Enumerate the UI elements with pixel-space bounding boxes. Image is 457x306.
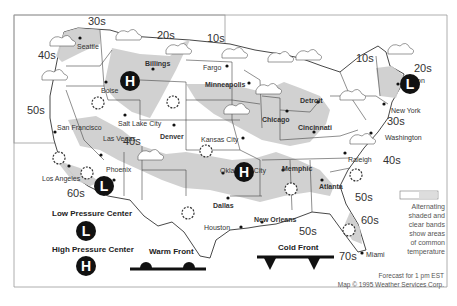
city-label: New York — [391, 107, 421, 114]
city-label: Chicago — [262, 116, 290, 123]
city-label: Houston — [204, 224, 230, 231]
city-label: Kansas City — [201, 136, 238, 143]
city-label: Atlanta — [319, 183, 343, 190]
temperature-band-label: 20s — [414, 63, 432, 74]
warm-front-symbol — [130, 262, 206, 269]
high-pressure-icon: H — [234, 162, 254, 182]
low-pressure-label: Low Pressure Center — [52, 210, 132, 218]
city-label: Dallas — [213, 202, 234, 209]
city-label: Miami — [366, 251, 385, 258]
temperature-band-label: 30s — [88, 16, 106, 27]
city-label: Washington — [385, 134, 422, 141]
high-pressure-legend-icon: H — [76, 256, 96, 276]
temperature-band-label: 40s — [383, 155, 401, 166]
band-note-line: show areas — [407, 229, 445, 238]
city-label: Cincinnati — [298, 124, 332, 131]
temperature-band-label: 40s — [38, 50, 56, 61]
copyright-credit: Map © 1995 Weather Services Corp. — [338, 280, 444, 289]
footer: Forecast for 1 pm EST Map © 1995 Weather… — [338, 271, 444, 289]
low-pressure-icon: L — [94, 176, 114, 196]
city-label: Los Angeles — [42, 175, 80, 182]
city-label: New Orleans — [254, 216, 296, 223]
temperature-band-label: 10s — [356, 53, 374, 64]
city-label: Fargo — [203, 64, 221, 71]
band-note-line: clear bands — [407, 220, 445, 229]
city-label: Phoenix — [106, 166, 131, 173]
band-note-line: of common — [407, 238, 445, 247]
temperature-band-label: 10s — [207, 33, 225, 44]
city-label: Denver — [160, 133, 184, 140]
city-label: Las Vegas — [103, 135, 136, 142]
temperature-band-label: 20s — [157, 30, 175, 41]
band-note-line: temperature — [407, 247, 445, 256]
city-label: Billings — [145, 60, 170, 67]
city-label: Memphic — [282, 165, 312, 172]
temperature-band-label: 60s — [361, 215, 379, 226]
low-pressure-legend-icon: L — [76, 221, 96, 241]
forecast-time: Forecast for 1 pm EST — [338, 271, 444, 280]
city-label: Boise — [101, 87, 119, 94]
temperature-band-label: 50s — [299, 226, 317, 237]
city-label: Salt Lake City — [118, 120, 161, 127]
temperature-band-label: 60s — [67, 188, 85, 199]
band-note: Alternating shaded and clear bands show … — [407, 202, 445, 256]
temperature-band-label: 30s — [387, 116, 405, 127]
warm-front-label: Warm Front — [149, 248, 194, 256]
city-label: Raleigh — [348, 156, 372, 163]
weather-map — [0, 0, 457, 306]
cold-front-label: Cold Front — [278, 244, 318, 252]
band-note-line: shaded and — [407, 211, 445, 220]
temperature-band-label: 70s — [339, 251, 357, 262]
high-pressure-label: High Pressure Center — [52, 246, 134, 254]
cold-front-symbol — [257, 257, 334, 270]
temperature-band-label: 50s — [355, 192, 373, 203]
band-note-line: Alternating — [407, 202, 445, 211]
temperature-band-label: 50s — [27, 105, 45, 116]
low-pressure-icon: L — [400, 74, 420, 94]
city-label: Minneapolis — [205, 81, 245, 88]
city-label: Seattle — [77, 43, 99, 50]
high-pressure-icon: H — [120, 71, 140, 91]
city-label: Detroit — [300, 97, 323, 104]
city-label: San Francisco — [57, 124, 102, 131]
